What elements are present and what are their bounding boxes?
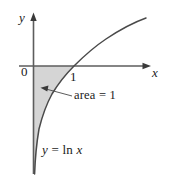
curve-equation-y: y — [42, 142, 48, 157]
x-axis-label: x — [152, 66, 158, 79]
area-annotation-equals: = — [99, 88, 106, 102]
origin-label: 0 — [21, 65, 28, 78]
area-annotation-word: area — [74, 88, 96, 102]
area-annotation-label: area = 1 — [74, 89, 116, 102]
logarithm-area-figure: y x 0 1 area = 1 y = ln x — [0, 0, 172, 176]
y-axis-arrowhead — [30, 13, 36, 22]
y-axis-label: y — [19, 11, 25, 24]
curve-equation-equals: = — [51, 142, 59, 157]
x-tick-label-one-text: 1 — [70, 69, 77, 84]
curve-equation-ln: ln — [62, 142, 73, 157]
curve-equation-x: x — [76, 142, 82, 157]
x-axis-label-text: x — [152, 65, 158, 80]
origin-label-text: 0 — [21, 64, 28, 79]
y-axis-label-text: y — [19, 10, 25, 25]
x-axis-arrowhead — [143, 63, 152, 69]
area-annotation-value: 1 — [110, 88, 116, 102]
curve-equation-label: y = ln x — [42, 143, 82, 156]
x-tick-label-one: 1 — [70, 70, 77, 83]
